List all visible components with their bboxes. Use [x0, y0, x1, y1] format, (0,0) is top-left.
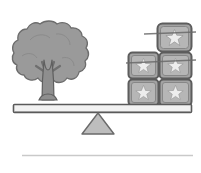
block-bottom-left [129, 80, 159, 106]
block-stack [126, 24, 196, 106]
fulcrum [82, 113, 114, 134]
block-bottom-right [160, 80, 192, 106]
block-middle-left [129, 53, 159, 79]
balance-scale-illustration [0, 0, 201, 173]
block-top-right [158, 24, 192, 52]
balance-beam [14, 105, 192, 113]
block-middle-right [160, 53, 192, 79]
tree [12, 21, 88, 100]
